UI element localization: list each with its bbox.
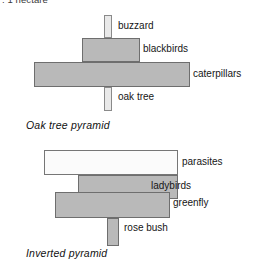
bar-rose-bush (107, 218, 119, 246)
bar-parasites (44, 150, 178, 175)
bar-label-oak-tree: oak tree (118, 92, 154, 102)
bar-label-blackbirds: blackbirds (143, 44, 188, 54)
oak-tree-pyramid: buzzard blackbirds caterpillars oak tree… (0, 0, 264, 134)
bar-caterpillars (34, 62, 190, 87)
bar-label-greenfly: greenfly (173, 198, 209, 208)
bar-label-buzzard: buzzard (118, 21, 154, 31)
bar-label-ladybirds: ladybirds (151, 181, 191, 191)
bar-label-rose-bush: rose bush (124, 223, 168, 233)
caption-inverted-pyramid: Inverted pyramid (26, 247, 107, 259)
inverted-pyramid: parasites ladybirds greenfly rose bush I… (0, 134, 264, 266)
bar-label-caterpillars: caterpillars (193, 69, 241, 79)
bar-blackbirds (82, 38, 140, 62)
caption-oak-tree-pyramid: Oak tree pyramid (26, 119, 110, 131)
bar-greenfly (55, 192, 170, 218)
bar-oak-tree (104, 87, 112, 111)
bar-label-parasites: parasites (182, 157, 223, 167)
bar-buzzard (104, 15, 112, 38)
